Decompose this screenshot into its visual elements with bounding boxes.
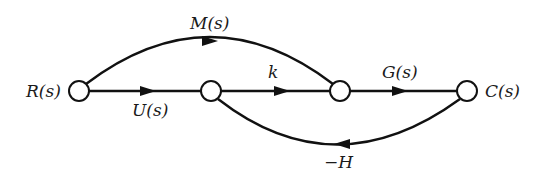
edge-c-to-n2-feedback — [218, 99, 460, 145]
node-r — [69, 81, 89, 101]
arrow-h-icon — [334, 139, 350, 149]
arrow-k-icon — [274, 86, 290, 96]
label-forward-gain: G(s) — [382, 62, 418, 82]
label-feedback-gain: −H — [324, 152, 354, 172]
label-input: R(s) — [25, 81, 61, 101]
label-direct-path: U(s) — [132, 100, 168, 120]
arrow-u-icon — [140, 86, 156, 96]
arrow-g-icon — [392, 86, 408, 96]
node-3 — [330, 81, 350, 101]
node-2 — [201, 81, 221, 101]
edge-r-to-n3-upper — [86, 37, 333, 84]
node-c — [457, 81, 477, 101]
label-upper-path: M(s) — [189, 13, 229, 33]
label-middle-gain: k — [268, 62, 278, 82]
label-output: C(s) — [485, 81, 520, 101]
signal-flow-graph: R(s) M(s) U(s) k G(s) C(s) −H — [0, 0, 545, 177]
